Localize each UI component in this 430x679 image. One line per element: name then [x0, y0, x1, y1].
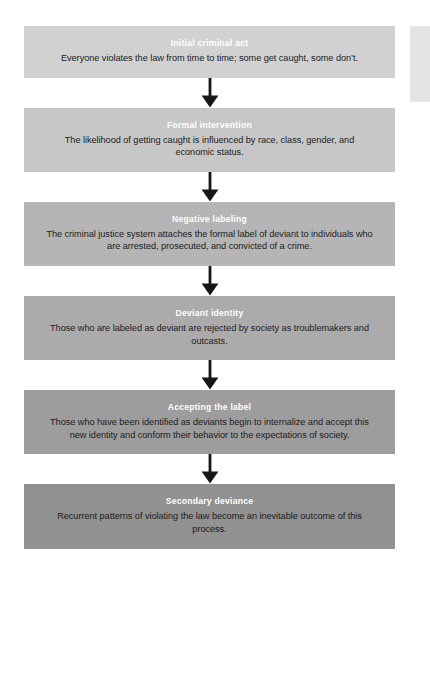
flow-stage-1: Initial criminal actEveryone violates th…: [24, 26, 395, 78]
flow-connector-1: [24, 78, 395, 108]
flow-connector-5: [24, 454, 395, 484]
flow-stage-3: Negative labelingThe criminal justice sy…: [24, 202, 395, 266]
down-arrow-icon: [199, 78, 221, 108]
flow-stage-2: Formal interventionThe likelihood of get…: [24, 108, 395, 172]
flow-stage-description: Recurrent patterns of violating the law …: [45, 510, 375, 535]
page-edge-strip: [410, 26, 430, 102]
flow-stage-description: The likelihood of getting caught is infl…: [45, 134, 375, 159]
flow-stage-title: Negative labeling: [40, 213, 379, 225]
flow-stage-description: The criminal justice system attaches the…: [45, 228, 375, 253]
flow-stage-4: Deviant identityThose who are labeled as…: [24, 296, 395, 360]
flowchart: Initial criminal actEveryone violates th…: [24, 26, 395, 549]
flow-connector-4: [24, 360, 395, 390]
flow-connector-2: [24, 172, 395, 202]
flow-stage-6: Secondary devianceRecurrent patterns of …: [24, 484, 395, 548]
flow-stage-description: Everyone violates the law from time to t…: [45, 52, 375, 65]
flow-stage-title: Formal intervention: [40, 119, 379, 131]
flow-stage-title: Secondary deviance: [40, 495, 379, 507]
flow-stage-title: Deviant identity: [40, 307, 379, 319]
down-arrow-icon: [199, 454, 221, 484]
flow-stage-title: Accepting the label: [40, 401, 379, 413]
flow-stage-description: Those who are labeled as deviant are rej…: [45, 322, 375, 347]
down-arrow-icon: [199, 266, 221, 296]
flow-connector-3: [24, 266, 395, 296]
flow-stage-5: Accepting the labelThose who have been i…: [24, 390, 395, 454]
flow-stage-description: Those who have been identified as devian…: [45, 416, 375, 441]
down-arrow-icon: [199, 360, 221, 390]
down-arrow-icon: [199, 172, 221, 202]
flow-stage-title: Initial criminal act: [40, 37, 379, 49]
